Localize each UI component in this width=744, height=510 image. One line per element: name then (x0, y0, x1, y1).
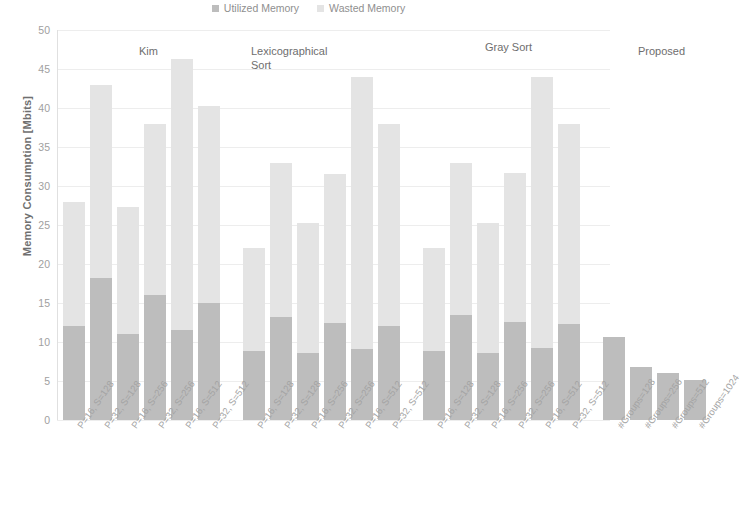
y-axis-tick-label: 0 (44, 414, 50, 426)
bar-segment-wasted-memory (531, 77, 553, 348)
bar-segment-wasted-memory (144, 124, 166, 296)
bar-column (90, 85, 112, 420)
bar-segment-wasted-memory (297, 223, 319, 353)
bar-segment-wasted-memory (171, 59, 193, 330)
y-axis-tick-label: 35 (38, 141, 50, 153)
y-axis-tick-label: 10 (38, 336, 50, 348)
legend-label-utilized-memory: Utilized Memory (224, 2, 299, 14)
group-title: Lexicographical Sort (251, 44, 341, 72)
legend-entry-utilized-memory: Utilized Memory (212, 2, 299, 14)
chart-legend: Utilized Memory Wasted Memory (0, 0, 617, 16)
group-title: Proposed (617, 44, 707, 58)
y-axis-tick-label: 50 (38, 24, 50, 36)
y-axis-tick-label: 5 (44, 375, 50, 387)
group-title: Gray Sort (464, 40, 554, 54)
group-title: Kim (104, 44, 194, 58)
bar-column (423, 248, 445, 420)
legend-swatch-utilized-memory (212, 5, 219, 12)
y-axis-tick-label: 15 (38, 297, 50, 309)
bar-segment-wasted-memory (117, 207, 139, 334)
bar-column (243, 248, 265, 420)
y-axis-tick-label: 45 (38, 63, 50, 75)
y-axis-tick-label: 25 (38, 219, 50, 231)
bar-segment-wasted-memory (504, 173, 526, 322)
gridline: 40 (57, 108, 610, 109)
legend-entry-wasted-memory: Wasted Memory (317, 2, 405, 14)
legend-swatch-wasted-memory (317, 5, 324, 12)
bar-segment-wasted-memory (378, 124, 400, 327)
bar-column (63, 202, 85, 420)
bar-segment-wasted-memory (90, 85, 112, 278)
y-axis-title: Memory Consumption [Mbits] (21, 61, 33, 291)
y-axis-tick-label: 20 (38, 258, 50, 270)
bar-segment-wasted-memory (270, 163, 292, 317)
bar-segment-wasted-memory (63, 202, 85, 327)
bar-segment-wasted-memory (351, 77, 373, 349)
bar-segment-wasted-memory (558, 124, 580, 324)
bar-segment-wasted-memory (450, 163, 472, 316)
bar-segment-wasted-memory (198, 106, 220, 303)
bar-segment-wasted-memory (324, 174, 346, 323)
legend-label-wasted-memory: Wasted Memory (329, 2, 405, 14)
bar-segment-wasted-memory (243, 248, 265, 351)
y-axis-tick-label: 30 (38, 180, 50, 192)
y-axis-tick-label: 40 (38, 102, 50, 114)
bar-segment-wasted-memory (477, 223, 499, 353)
bar-segment-wasted-memory (423, 248, 445, 350)
gridline: 50 (57, 30, 610, 31)
gridline: 35 (57, 147, 610, 148)
y-axis-line (57, 30, 58, 420)
bar-segment-utilized-memory (63, 326, 85, 420)
